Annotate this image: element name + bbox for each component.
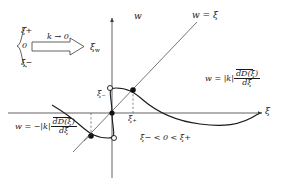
upper-curve-coefficient: |k| xyxy=(224,74,234,83)
upper-curve-fraction: dD̄(ξ)dξ xyxy=(234,70,260,87)
xi-plus-annotation: ξ+ xyxy=(128,115,137,123)
lower-curve-numerator: dD̄(ξ) xyxy=(51,118,77,127)
inset-target-label: ξw xyxy=(90,43,100,53)
lower-curve-label: w = −|k|dD̄(ξ)dξ xyxy=(15,118,77,135)
upper-curve-label: w = |k|dD̄(ξ)dξ xyxy=(205,70,260,87)
inset-brace-value-1: 0 xyxy=(22,42,27,50)
lower-curve-fraction: dD̄(ξ)dξ xyxy=(51,118,77,135)
upper-extremum xyxy=(108,86,113,91)
upper-curve-denominator: dξ xyxy=(234,79,260,87)
upper-curve-lhs: w = xyxy=(205,74,224,83)
inset-brace-value-0: ξ+ xyxy=(21,27,32,35)
inset-target-subscript: w xyxy=(95,47,100,53)
xi-plus-subscript: + xyxy=(132,117,136,123)
figure-canvas xyxy=(0,0,285,186)
w-axis-label: w xyxy=(134,12,142,21)
upper-curve-numerator: dD̄(ξ) xyxy=(234,70,260,79)
identity-line-label: w = ξ xyxy=(192,11,218,20)
inset-brace-value-2: ξ− xyxy=(21,59,32,67)
xi-minus-intersection xyxy=(88,133,94,139)
lower-curve-denominator: dξ xyxy=(51,127,77,135)
lower-curve-lhs: w = − xyxy=(15,122,40,131)
inequality-annotation: ξ− < 0 < ξ+ xyxy=(140,134,191,142)
identity-line-label-text: w = ξ xyxy=(192,10,218,20)
lower-curve-coefficient: |k| xyxy=(40,122,50,131)
inset-arrow-label: k → 0 xyxy=(47,33,69,41)
xi-plus-intersection xyxy=(130,87,136,93)
lower-extremum xyxy=(112,136,117,141)
origin-point xyxy=(109,110,114,115)
xi-minus-subscript: − xyxy=(101,92,105,98)
xi-axis-label: ξ xyxy=(265,107,270,116)
xi-minus-annotation: ξ− xyxy=(97,90,106,98)
dispersion-relation-figure: w ξ w = ξ w = |k|dD̄(ξ)dξ w = −|k|dD̄(ξ)… xyxy=(0,0,285,186)
